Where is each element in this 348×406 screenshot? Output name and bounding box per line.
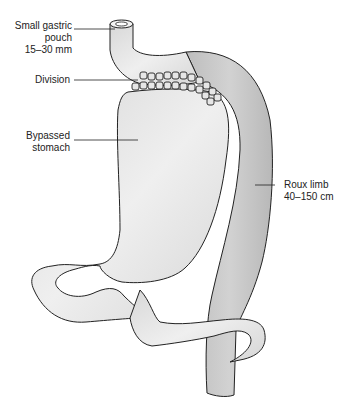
bypassed-stomach xyxy=(32,89,229,322)
label-small-gastric-pouch: Small gastric pouch 15–30 mm xyxy=(0,20,72,56)
label-division: Division xyxy=(0,74,70,86)
gastric-bypass-illustration xyxy=(0,0,348,406)
label-bypassed-stomach: Bypassed stomach xyxy=(0,130,70,154)
label-roux-limb: Roux limb 40–150 cm xyxy=(284,179,348,203)
